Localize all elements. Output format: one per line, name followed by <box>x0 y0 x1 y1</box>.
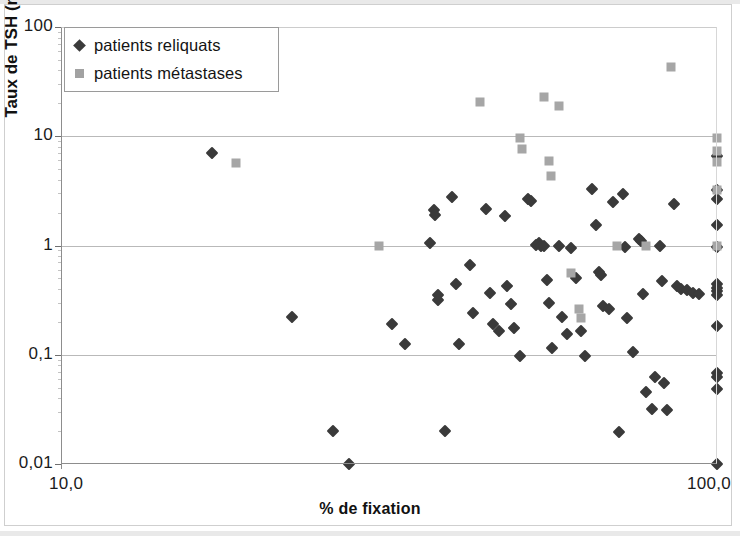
data-point-reliquats <box>480 203 493 216</box>
data-point-reliquats <box>711 371 724 384</box>
data-point-metastases <box>555 101 564 110</box>
data-point-reliquats <box>467 307 480 320</box>
y-minor-tick <box>58 153 61 154</box>
data-point-reliquats <box>592 266 605 279</box>
data-point-reliquats <box>399 338 412 351</box>
y-minor-tick <box>58 70 61 71</box>
data-point-reliquats <box>711 150 724 163</box>
y-minor-tick <box>58 431 61 432</box>
data-point-metastases <box>540 92 549 101</box>
data-point-reliquats <box>645 402 658 415</box>
data-point-reliquats <box>431 289 444 302</box>
data-point-reliquats <box>446 190 459 203</box>
data-point-metastases <box>576 314 585 323</box>
data-point-reliquats <box>711 193 724 206</box>
data-point-reliquats <box>343 458 356 471</box>
data-point-metastases <box>567 269 576 278</box>
data-point-reliquats <box>711 367 724 380</box>
data-point-reliquats <box>429 209 442 222</box>
y-minor-tick <box>58 250 61 251</box>
data-point-reliquats <box>711 382 724 395</box>
scatter-plot-figure: Taux de TSH (mUI/L) 0,010,1110100 10,010… <box>0 0 740 536</box>
data-point-reliquats <box>492 325 505 338</box>
data-point-metastases <box>545 157 554 166</box>
data-point-metastases <box>713 147 722 156</box>
y-tick-label: 1 <box>43 235 53 255</box>
data-point-reliquats <box>693 288 706 301</box>
legend-label-reliquats: patients reliquats <box>94 36 221 55</box>
data-point-reliquats <box>439 425 452 438</box>
data-point-reliquats <box>711 281 724 294</box>
data-point-metastases <box>713 134 722 143</box>
y-tick-label: 10 <box>33 125 53 145</box>
gridline-y <box>61 246 717 247</box>
data-point-reliquats <box>499 210 512 223</box>
data-point-reliquats <box>594 268 607 281</box>
data-point-reliquats <box>453 338 466 351</box>
x-tick-label: 100,0 <box>687 474 731 494</box>
data-point-reliquats <box>711 278 724 291</box>
data-point-reliquats <box>671 279 684 292</box>
x-tick-mark <box>717 464 718 469</box>
y-minor-tick <box>58 303 61 304</box>
data-point-metastases <box>475 98 484 107</box>
y-minor-tick <box>58 180 61 181</box>
data-point-reliquats <box>640 385 653 398</box>
data-point-metastases <box>515 133 524 142</box>
data-point-reliquats <box>617 188 630 201</box>
data-point-reliquats <box>681 284 694 297</box>
data-point-reliquats <box>668 198 681 211</box>
data-point-reliquats <box>711 285 724 298</box>
y-minor-tick <box>58 60 61 61</box>
data-point-reliquats <box>649 371 662 384</box>
data-point-reliquats <box>597 300 610 313</box>
y-minor-tick <box>58 160 61 161</box>
y-tick-mark <box>55 27 61 28</box>
y-minor-tick <box>58 365 61 366</box>
data-point-metastases <box>518 144 527 153</box>
data-point-reliquats <box>711 288 724 301</box>
y-minor-tick <box>58 141 61 142</box>
data-point-reliquats <box>574 325 587 338</box>
data-point-reliquats <box>613 426 626 439</box>
data-point-reliquats <box>500 279 513 292</box>
gridline-y <box>61 355 717 356</box>
data-point-reliquats <box>463 259 476 272</box>
data-point-reliquats <box>432 293 445 306</box>
data-point-reliquats <box>507 322 520 335</box>
data-point-reliquats <box>627 346 640 359</box>
data-point-reliquats <box>486 318 499 331</box>
legend-entry-metastases: patients métastases <box>75 60 243 86</box>
data-point-reliquats <box>286 311 299 324</box>
legend-label-metastases: patients métastases <box>94 64 243 83</box>
x-tick-label: 10,0 <box>49 474 83 494</box>
y-minor-tick <box>58 169 61 170</box>
plot-area <box>61 27 717 464</box>
data-point-metastases <box>546 172 555 181</box>
y-minor-tick <box>58 412 61 413</box>
data-point-reliquats <box>674 283 687 296</box>
y-minor-tick <box>58 379 61 380</box>
y-tick-mark <box>55 355 61 356</box>
y-tick-mark <box>55 246 61 247</box>
y-minor-tick <box>58 360 61 361</box>
x-tick-mark <box>61 464 62 469</box>
data-point-reliquats <box>590 218 603 231</box>
y-minor-tick <box>58 193 61 194</box>
data-point-reliquats <box>206 147 219 160</box>
data-point-reliquats <box>656 275 669 288</box>
y-minor-tick <box>58 44 61 45</box>
data-point-reliquats <box>532 237 545 250</box>
data-point-reliquats <box>711 184 724 197</box>
legend-square-marker-icon <box>75 69 84 78</box>
y-minor-tick <box>58 372 61 373</box>
data-point-reliquats <box>687 286 700 299</box>
data-point-reliquats <box>522 193 535 206</box>
y-axis-label: Taux de TSH (mUI/L) <box>2 0 22 150</box>
data-point-metastases <box>713 158 722 167</box>
y-minor-tick <box>58 388 61 389</box>
y-minor-tick <box>58 51 61 52</box>
data-point-metastases <box>666 63 675 72</box>
data-point-metastases <box>574 305 583 314</box>
data-point-reliquats <box>711 218 724 231</box>
